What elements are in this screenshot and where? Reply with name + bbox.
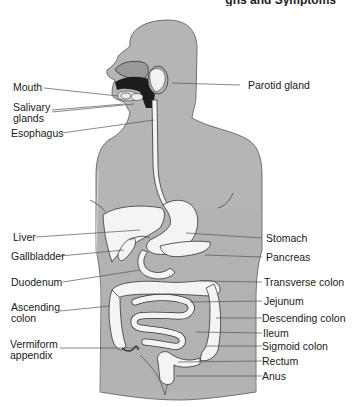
label-sigmoid-colon: Sigmoid colon bbox=[262, 341, 328, 352]
label-mouth: Mouth bbox=[13, 82, 42, 93]
label-vermiform-appendix-2: appendix bbox=[10, 350, 53, 361]
label-ileum: Ileum bbox=[263, 328, 289, 339]
label-transverse-colon: Transverse colon bbox=[264, 277, 344, 288]
label-stomach: Stomach bbox=[266, 233, 307, 244]
label-parotid-gland: Parotid gland bbox=[248, 80, 310, 91]
label-salivary-glands-2: glands bbox=[13, 113, 44, 124]
label-rectum: Rectum bbox=[262, 356, 298, 367]
label-jejunum: Jejunum bbox=[264, 296, 304, 307]
label-anus: Anus bbox=[262, 371, 286, 382]
label-duodenum: Duodenum bbox=[11, 277, 62, 288]
label-descending-colon: Descending colon bbox=[262, 313, 345, 324]
label-esophagus: Esophagus bbox=[11, 128, 64, 139]
label-pancreas: Pancreas bbox=[266, 252, 310, 263]
label-gallbladder: Gallbladder bbox=[11, 251, 65, 262]
label-ascending-colon-2: colon bbox=[11, 313, 36, 324]
label-liver: Liver bbox=[13, 232, 36, 243]
